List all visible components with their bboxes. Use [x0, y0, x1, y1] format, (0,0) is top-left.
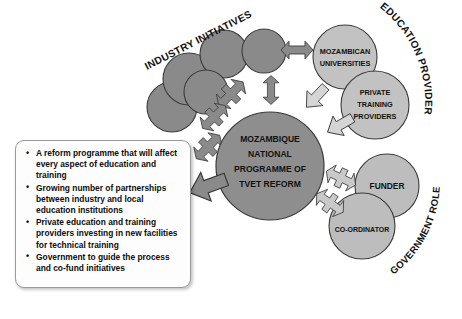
list-item: Private education and training providers… — [36, 217, 182, 251]
center-label-line-1: MOZAMBIQUE — [240, 134, 300, 144]
center-label-line-2: NATIONAL — [248, 149, 292, 159]
double-arrow-industry-vertical — [263, 76, 279, 105]
label-private-training-line-2: TRAINING — [357, 100, 393, 109]
center-label-line-3: PROGRAMME OF — [234, 164, 306, 174]
center-node: MOZAMBIQUE NATIONAL PROGRAMME OF TVET RE… — [216, 112, 324, 220]
summary-bullet-list: A reform programme that will affect ever… — [20, 148, 184, 274]
label-funder: FUNDER — [370, 181, 405, 191]
label-mozambican-universities-line-2: UNIVERSITIES — [320, 59, 371, 68]
list-item: A reform programme that will affect ever… — [36, 148, 182, 182]
list-item: Government to guide the process and co-f… — [36, 252, 182, 274]
list-item: Growing number of partnerships between i… — [36, 183, 182, 217]
industry-circle-4 — [242, 29, 286, 73]
summary-callout-box: A reform programme that will affect ever… — [15, 140, 191, 288]
label-private-training-line-3: PROVIDERS — [354, 112, 397, 121]
label-co-ordinator: CO-ORDINATOR — [335, 226, 390, 233]
education-providers-group: MOZAMBICAN UNIVERSITIES PRIVATE TRAINING… — [313, 25, 409, 139]
label-mozambican-universities-line-1: MOZAMBICAN — [320, 47, 371, 56]
label-private-training-line-1: PRIVATE — [360, 88, 391, 97]
diagram-canvas: MOZAMBIQUE NATIONAL PROGRAMME OF TVET RE… — [0, 0, 462, 319]
center-label-line-4: TVET REFORM — [239, 179, 301, 189]
